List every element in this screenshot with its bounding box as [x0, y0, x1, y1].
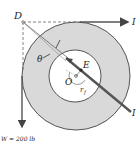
label-weight: W = 200 lb	[1, 135, 35, 141]
label-d: D	[13, 10, 22, 21]
label-bottom-right: I	[131, 108, 136, 118]
pulley-diagram: D θ E O r f I I W = 200 lb	[0, 0, 136, 141]
point-d	[22, 21, 24, 23]
label-o: O	[65, 77, 73, 87]
label-theta: θ	[37, 54, 43, 64]
label-e: E	[82, 60, 90, 70]
label-top-right: I	[131, 17, 136, 27]
